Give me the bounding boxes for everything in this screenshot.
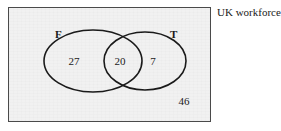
set-label-t: T	[170, 29, 177, 40]
region-count-t-only: 7	[147, 56, 159, 67]
region-count-intersection: 20	[110, 56, 130, 67]
region-count-outside: 46	[176, 96, 192, 107]
venn-diagram-figure: F T 27 20 7 46 UK workforce	[0, 0, 281, 131]
venn-circles	[0, 0, 281, 131]
universal-set-caption: UK workforce	[217, 6, 281, 18]
region-count-f-only: 27	[64, 56, 84, 67]
set-label-f: F	[55, 29, 62, 40]
